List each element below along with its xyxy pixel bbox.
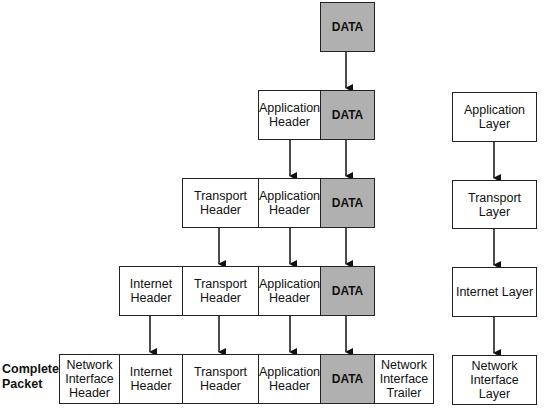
data-block: DATA: [320, 354, 375, 404]
transport-header: Transport Header: [182, 266, 259, 316]
network-interface-header: Network Interface Header: [59, 354, 120, 404]
data-block: DATA: [320, 90, 375, 140]
application-header: Application Header: [258, 354, 321, 404]
transport-header: Transport Header: [182, 178, 259, 228]
data-block: DATA: [320, 178, 375, 228]
network-interface-trailer: Network Interface Trailer: [374, 354, 434, 404]
data-block: DATA: [320, 2, 375, 52]
application-layer: Application Layer: [452, 92, 537, 142]
data-block: DATA: [320, 266, 375, 316]
internet-header: Internet Header: [119, 266, 183, 316]
application-header: Application Header: [258, 90, 321, 140]
network-interface-layer: Network Interface Layer: [452, 355, 537, 405]
complete-packet-label: Complete Packet: [2, 362, 59, 392]
transport-layer: Transport Layer: [452, 180, 537, 229]
internet-header: Internet Header: [119, 354, 183, 404]
application-header: Application Header: [258, 178, 321, 228]
internet-layer: Internet Layer: [452, 267, 537, 317]
application-header: Application Header: [258, 266, 321, 316]
transport-header: Transport Header: [182, 354, 259, 404]
